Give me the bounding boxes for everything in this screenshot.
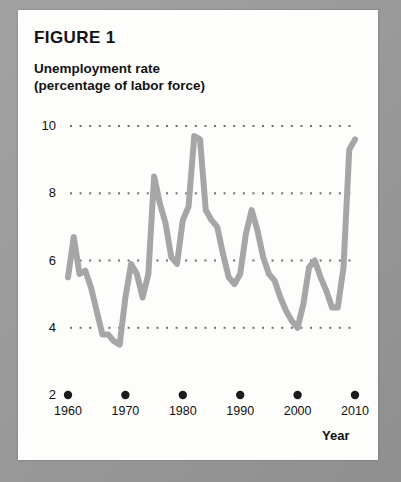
x-axis-tick-label: 1970 — [101, 404, 149, 418]
x-axis-title: Year — [322, 428, 349, 443]
y-axis-tick-label: 8 — [26, 185, 56, 200]
unemployment-rate-series — [68, 136, 355, 344]
y-axis-tick-label: 6 — [26, 253, 56, 268]
figure-card: FIGURE 1 Unemployment rate (percentage o… — [18, 10, 378, 460]
y-axis-tick-label: 10 — [26, 118, 56, 133]
x-axis-tick-label: 2010 — [331, 404, 379, 418]
y-axis-tick-label: 2 — [26, 387, 56, 402]
chart-x-tick-marks — [64, 391, 359, 399]
chart-gridlines — [70, 125, 350, 329]
y-axis-tick-label: 4 — [26, 320, 56, 335]
plot-area: 108642 196019701980199020002010 Year — [18, 10, 378, 460]
screenshot-root: FIGURE 1 Unemployment rate (percentage o… — [0, 0, 401, 482]
unemployment-line-chart — [18, 10, 378, 460]
x-axis-tick-label: 1990 — [216, 404, 264, 418]
x-axis-tick-label: 1960 — [44, 404, 92, 418]
x-axis-tick-label: 2000 — [274, 404, 322, 418]
x-axis-tick-label: 1980 — [159, 404, 207, 418]
